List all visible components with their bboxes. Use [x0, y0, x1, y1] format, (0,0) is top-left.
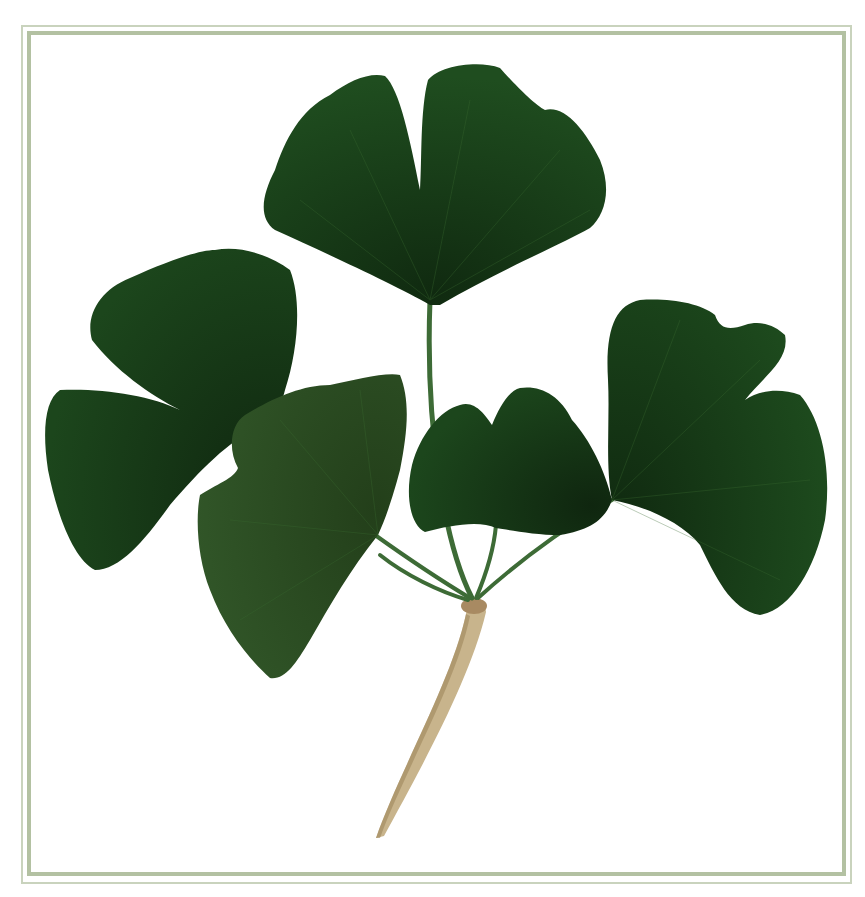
- leaf-right: [607, 300, 827, 615]
- ginkgo-leaves-illustration: [0, 0, 865, 897]
- twig: [376, 598, 487, 838]
- leaf-top: [264, 64, 606, 305]
- leaf-small-center: [409, 387, 612, 535]
